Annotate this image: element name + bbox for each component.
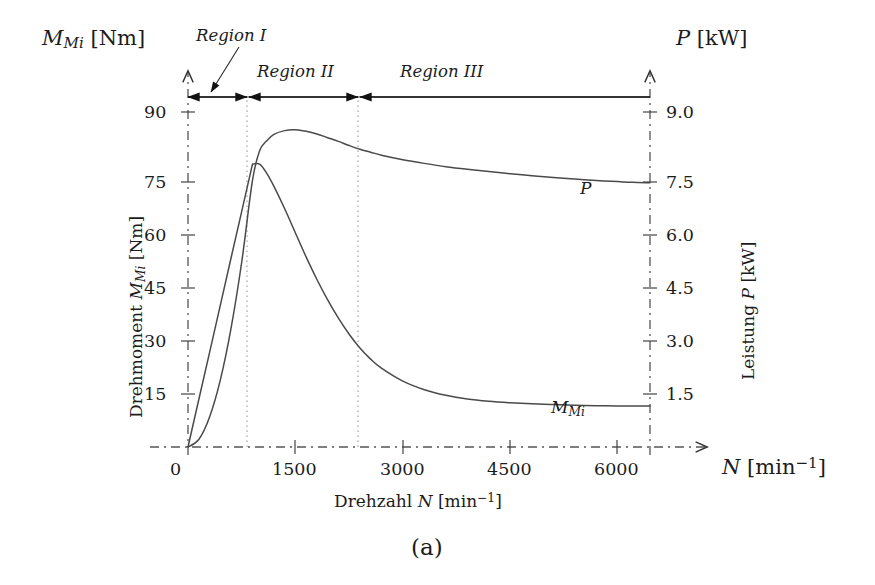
left-tick-label-60: 60: [144, 227, 166, 245]
region-label-3: Region III: [400, 64, 483, 81]
right-tick-label-7p5: 7.5: [666, 174, 694, 192]
right-axis-name-unit: [kW]: [738, 242, 758, 283]
x-axis-title-unit: [min−1]: [747, 455, 826, 479]
right-axis-title-unit: [kW]: [697, 26, 748, 50]
left-axis-name-var-sub: Mi: [134, 266, 148, 282]
x-tick-label-4500: 4500: [487, 461, 532, 479]
left-axis-name-var: M: [126, 282, 146, 299]
x-axis-name-unit: [min−1]: [438, 491, 502, 511]
torque-curve-label-sub: Mi: [568, 405, 584, 419]
right-axis-name-prefix: Leistung: [738, 305, 758, 380]
left-axis-title-sub: Mi: [64, 34, 84, 52]
figure-container: MMi [Nm] P [kW] Region I Region II Regio…: [0, 0, 875, 585]
left-axis-title-unit: [Nm]: [91, 26, 146, 50]
right-tick-label-9p0: 9.0: [666, 104, 694, 122]
right-tick-label-3p0: 3.0: [666, 333, 694, 351]
x-axis-title-var: N: [722, 455, 740, 479]
region-boundary-lines: [247, 100, 358, 447]
left-tick-label-45: 45: [144, 280, 166, 298]
power-curve-label: P: [580, 180, 591, 197]
left-axis-name-prefix: Drehmoment: [126, 305, 146, 418]
left-tick-label-90: 90: [144, 104, 166, 122]
region-label-2: Region II: [257, 64, 334, 81]
tick-marks: [181, 112, 657, 454]
right-tick-label-1p5: 1.5: [666, 386, 694, 404]
left-tick-label-15: 15: [144, 386, 166, 404]
left-axis-name: Drehmoment MMi [Nm]: [128, 216, 147, 418]
x-axis-title: N [min−1]: [722, 456, 826, 478]
x-tick-label-6000: 6000: [594, 461, 639, 479]
x-axis-name-prefix: Drehzahl: [334, 491, 412, 511]
x-tick-label-3000: 3000: [380, 461, 425, 479]
axis-lines: [150, 72, 706, 455]
figure-caption: (a): [411, 536, 443, 559]
x-tick-label-0: 0: [170, 461, 181, 479]
x-axis-name-var: N: [418, 491, 433, 511]
left-axis-name-unit: [Nm]: [126, 216, 146, 260]
left-tick-label-75: 75: [144, 174, 166, 192]
torque-curve-label: MMi: [551, 399, 585, 418]
right-tick-label-6p0: 6.0: [666, 227, 694, 245]
right-axis-name: Leistung P [kW]: [740, 242, 757, 380]
x-axis-name-exponent: −1: [477, 491, 495, 505]
right-axis-title: P [kW]: [676, 28, 748, 49]
right-axis-name-var: P: [738, 288, 758, 299]
x-axis-name: Drehzahl N [min−1]: [334, 492, 502, 510]
x-tick-label-1500: 1500: [272, 461, 317, 479]
right-tick-label-4p5: 4.5: [666, 280, 694, 298]
left-axis-title: MMi [Nm]: [42, 28, 145, 51]
x-axis-title-exponent: −1: [795, 454, 817, 472]
left-tick-label-30: 30: [144, 333, 166, 351]
left-axis-title-var: M: [42, 26, 64, 50]
region-label-1: Region I: [196, 28, 266, 45]
torque-curve-label-var: M: [551, 397, 568, 417]
region-1-leader-line: [211, 47, 239, 92]
right-axis-title-var: P: [676, 26, 690, 50]
